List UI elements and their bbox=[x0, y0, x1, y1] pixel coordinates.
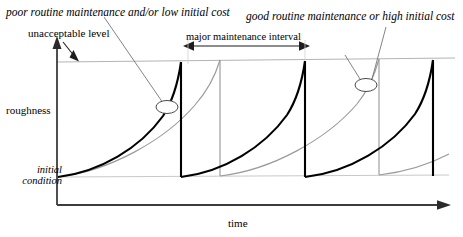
poor-maintenance-segment-2 bbox=[181, 61, 305, 177]
good-maintenance-segment-1 bbox=[58, 60, 220, 177]
poor-maintenance-leader-line bbox=[104, 17, 163, 103]
unacceptable-level-label: unacceptable level bbox=[28, 28, 110, 40]
good-maintenance-label: good routine maintenance or high initial… bbox=[246, 10, 454, 22]
unacceptable-level-leader bbox=[63, 42, 79, 62]
poor-maintenance-callout-ellipse bbox=[156, 101, 178, 114]
initial-condition-label-line1: initial bbox=[37, 164, 62, 175]
interval-arrowhead-left-icon bbox=[183, 41, 194, 50]
initial-condition-label-line2: condition bbox=[22, 175, 62, 186]
poor-maintenance-curve bbox=[58, 60, 433, 177]
good-maintenance-callout-ellipse bbox=[355, 79, 377, 92]
x-axis-label: time bbox=[228, 218, 248, 230]
y-axis-label: roughness bbox=[6, 105, 51, 117]
major-maintenance-interval-label: major maintenance interval bbox=[186, 31, 301, 42]
good-maintenance-segment-2 bbox=[220, 59, 379, 176]
initial-condition-label: initial condition bbox=[8, 164, 62, 186]
unacceptable-level-line bbox=[57, 58, 455, 62]
initial-condition-line bbox=[57, 175, 449, 177]
interval-arrowhead-right-icon bbox=[299, 41, 310, 50]
pavement-deterioration-diagram: poor routine maintenance and/or low init… bbox=[0, 0, 463, 237]
poor-maintenance-callout bbox=[104, 17, 178, 114]
poor-maintenance-label: poor routine maintenance and/or low init… bbox=[6, 6, 230, 18]
x-axis-arrowhead-icon bbox=[437, 200, 451, 210]
good-maintenance-curve bbox=[58, 59, 449, 177]
poor-maintenance-segment-3 bbox=[305, 60, 433, 177]
good-maintenance-segment-3 bbox=[379, 154, 449, 175]
